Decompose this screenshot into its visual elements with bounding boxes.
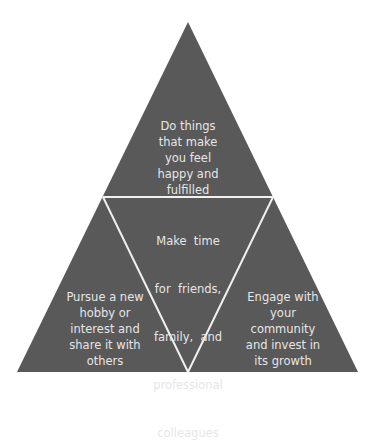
text-line: professional <box>138 377 238 393</box>
text-line: Do things <box>138 118 238 134</box>
section-top-text: Do things that make you feel happy and f… <box>138 118 238 198</box>
text-line: hobby or <box>50 305 160 321</box>
text-line: that make <box>138 134 238 150</box>
text-line: others <box>50 353 160 369</box>
section-bottom-left-text: Pursue a new hobby or interest and share… <box>50 289 160 369</box>
text-line: Engage with <box>228 289 338 305</box>
text-line: you feel <box>138 150 238 166</box>
text-line: Make time <box>138 233 238 249</box>
text-line: its growth <box>228 353 338 369</box>
text-line: Pursue a new <box>50 289 160 305</box>
text-line: happy and <box>138 166 238 182</box>
text-line: share it with <box>50 337 160 353</box>
text-line: interest and <box>50 321 160 337</box>
text-line: colleagues <box>138 425 238 441</box>
section-bottom-right-text: Engage with your community and invest in… <box>228 289 338 369</box>
text-line: community <box>228 321 338 337</box>
text-line: and invest in <box>228 337 338 353</box>
text-line: your <box>228 305 338 321</box>
text-line: fulfilled <box>138 182 238 198</box>
